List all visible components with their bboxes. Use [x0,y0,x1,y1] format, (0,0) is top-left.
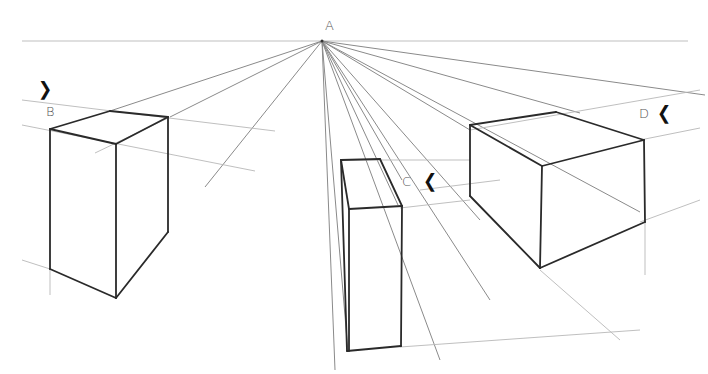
construction-line [400,330,640,347]
box-edge [542,140,644,166]
construction-line [322,41,705,95]
box-edge [644,140,645,222]
box-edge [116,117,168,144]
construction-line [322,41,580,113]
construction-line [540,270,620,340]
box-edge [380,159,402,206]
construction-line [640,128,700,140]
box-edge [341,159,380,160]
construction-line [640,200,700,222]
construction-line [322,41,640,212]
label-d: D [639,106,649,121]
box-edge [347,346,401,351]
label-a: A [325,18,334,33]
box-d [470,112,645,268]
box-edge [540,166,542,268]
construction-line [170,41,322,117]
box-edge [470,112,556,125]
construction-line [400,200,470,208]
box-edge [50,111,110,129]
box-b [50,111,168,298]
marker-d-chevron-icon: ❮ [657,101,671,123]
box-edge [50,269,116,298]
construction-line [22,260,50,269]
construction-lines [22,41,705,370]
construction-line [205,41,322,187]
box-c [341,159,402,351]
box-edge [470,125,542,166]
box-edge [50,129,116,144]
box-edge [556,112,644,140]
box-edge [540,222,645,268]
marker-c-chevron-icon: ❮ [423,169,437,191]
box-edge [401,206,402,346]
box-edge [110,111,168,117]
box-edge [470,196,540,268]
construction-line [110,41,322,111]
construction-line [322,41,440,360]
perspective-drawing [0,0,708,374]
marker-b-chevron-icon: ❯ [38,77,52,99]
box-edge [116,232,168,298]
construction-line [322,41,335,370]
construction-line [322,41,490,300]
label-b: B [46,104,55,119]
vanishing-point-a [321,40,324,43]
construction-line [322,41,470,130]
box-edge [349,206,402,209]
label-c: C [402,174,411,189]
